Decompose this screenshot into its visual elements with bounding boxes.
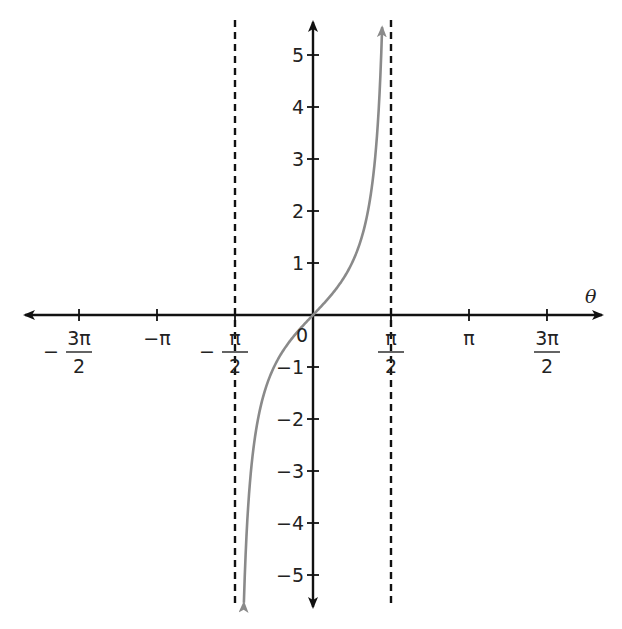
- x-tick-label: π2−: [199, 327, 248, 377]
- x-tick-label: π: [463, 327, 474, 349]
- svg-text:2: 2: [73, 355, 85, 377]
- svg-text:3π: 3π: [535, 327, 559, 349]
- x-tick-label: 3π2−: [43, 327, 92, 377]
- y-tick-label: −1: [276, 356, 304, 378]
- svg-text:π: π: [463, 327, 474, 349]
- y-tick-label: −2: [276, 408, 304, 430]
- svg-text:π: π: [385, 327, 396, 349]
- svg-text:−: −: [199, 340, 215, 362]
- svg-text:−: −: [43, 340, 59, 362]
- y-tick-label: 3: [292, 148, 304, 170]
- y-tick-label: −5: [276, 564, 304, 586]
- x-axis-label: θ: [585, 285, 597, 307]
- x-tick-label: π2: [378, 327, 404, 377]
- x-tick-label: 3π2: [534, 327, 560, 377]
- y-tick-label: −4: [276, 512, 304, 534]
- y-tick-label: 2: [292, 200, 304, 222]
- svg-text:2: 2: [229, 355, 241, 377]
- svg-text:2: 2: [541, 355, 553, 377]
- svg-text:3π: 3π: [67, 327, 91, 349]
- svg-text:−π: −π: [143, 327, 170, 349]
- x-tick-label: −π: [143, 327, 170, 349]
- y-tick-label: −3: [276, 460, 304, 482]
- svg-text:2: 2: [385, 355, 397, 377]
- y-tick-label: 4: [292, 96, 304, 118]
- svg-text:π: π: [229, 327, 240, 349]
- origin-label: 0: [296, 324, 308, 346]
- y-tick-label: 1: [292, 252, 304, 274]
- y-tick-label: 5: [292, 44, 304, 66]
- tangent-chart: 3π2−−ππ2−π2π3π2 54321−1−2−3−4−5 0 θ: [0, 0, 622, 629]
